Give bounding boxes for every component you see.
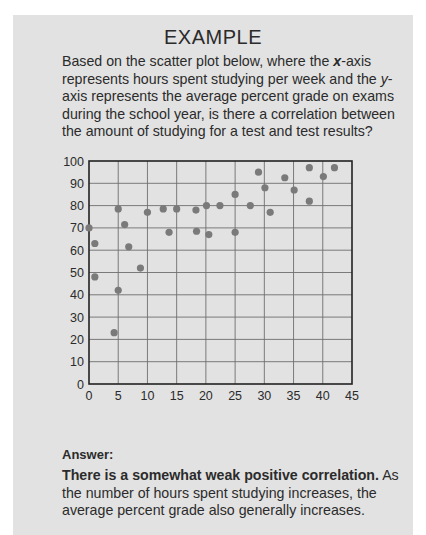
- x-tick-label: 0: [86, 389, 93, 403]
- data-point: [291, 186, 298, 193]
- data-point: [85, 224, 92, 231]
- x-tick-label: 25: [228, 389, 242, 403]
- data-point: [91, 240, 98, 247]
- data-point: [203, 202, 210, 209]
- x-tick-label: 15: [170, 389, 184, 403]
- y-tick-label: 20: [70, 333, 84, 347]
- y-tick-label: 40: [70, 288, 84, 302]
- data-point: [111, 329, 118, 336]
- data-point: [137, 264, 144, 271]
- y-tick-label: 60: [70, 244, 84, 258]
- data-point: [267, 209, 274, 216]
- data-point: [160, 205, 167, 212]
- data-point: [205, 231, 212, 238]
- x-tick-label: 5: [115, 389, 122, 403]
- data-point: [144, 209, 151, 216]
- data-point: [125, 243, 132, 250]
- y-tick-label: 0: [77, 378, 84, 392]
- data-point: [306, 198, 313, 205]
- data-point: [91, 273, 98, 280]
- y-tick-label: 70: [70, 221, 84, 235]
- y-tick-label: 90: [70, 177, 84, 191]
- chart-tick-labels: 0510152025303540450102030405060708090100: [63, 155, 359, 404]
- x-tick-label: 10: [140, 389, 154, 403]
- data-point: [247, 202, 254, 209]
- data-point: [232, 229, 239, 236]
- data-point: [261, 184, 268, 191]
- data-point: [281, 174, 288, 181]
- y-tick-label: 10: [70, 355, 84, 369]
- x-tick-label: 35: [287, 389, 301, 403]
- data-point: [255, 169, 262, 176]
- data-point: [165, 229, 172, 236]
- data-point: [306, 164, 313, 171]
- data-point: [216, 202, 223, 209]
- data-point: [115, 205, 122, 212]
- x-tick-label: 45: [345, 389, 359, 403]
- y-tick-label: 50: [70, 266, 84, 280]
- y-tick-label: 80: [70, 199, 84, 213]
- data-point: [121, 221, 128, 228]
- data-point: [320, 173, 327, 180]
- x-tick-label: 40: [316, 389, 330, 403]
- y-tick-label: 100: [63, 155, 84, 169]
- chart-grid: [89, 161, 352, 384]
- data-point: [193, 228, 200, 235]
- x-tick-label: 20: [199, 389, 213, 403]
- data-point: [331, 164, 338, 171]
- data-point: [192, 206, 199, 213]
- data-point: [115, 287, 122, 294]
- x-tick-label: 30: [257, 389, 271, 403]
- data-point: [173, 205, 180, 212]
- y-tick-label: 30: [70, 311, 84, 325]
- data-point: [232, 191, 239, 198]
